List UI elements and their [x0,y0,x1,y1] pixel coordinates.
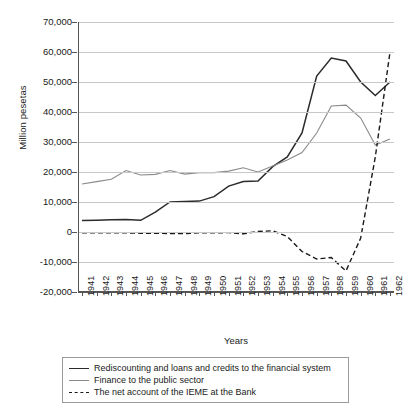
x-tick-label: 1953 [262,276,272,296]
legend-item: Finance to the public sector [69,374,343,386]
y-tick-label: 50,000 [0,76,72,87]
x-tick-mark [390,292,391,296]
y-tick-mark [72,142,77,143]
x-tick-mark [258,292,259,296]
x-tick-label: 1945 [145,276,155,296]
x-tick-mark [229,292,230,296]
x-tick-mark [185,292,186,296]
gridline [78,142,394,143]
x-tick-label: 1959 [350,276,360,296]
x-tick-mark [243,292,244,296]
y-tick-label: 0 [0,226,72,237]
x-tick-mark [361,292,362,296]
x-tick-label: 1942 [101,276,111,296]
gridline [78,232,394,233]
gridline [78,262,394,263]
x-tick-mark [331,292,332,296]
x-tick-label: 1949 [203,276,213,296]
legend-item-label: Rediscounting and loans and credits to t… [94,363,331,373]
x-tick-mark [273,292,274,296]
gridline [78,112,394,113]
gridline [78,52,394,53]
x-tick-mark [346,292,347,296]
series-lines [78,22,394,292]
y-tick-label: -20,000 [0,286,72,297]
chart-figure: Million pesetas 70,00060,00050,00040,000… [0,0,410,409]
legend-item: The net account of the IEME at the Bank [69,386,343,398]
x-tick-mark [170,292,171,296]
x-tick-mark [375,292,376,296]
x-tick-label: 1947 [174,276,184,296]
y-tick-label: 70,000 [0,16,72,27]
x-tick-mark [302,292,303,296]
y-tick-mark [72,202,77,203]
x-tick-label: 1957 [321,276,331,296]
x-tick-mark [82,292,83,296]
y-tick-mark [72,52,77,53]
x-tick-label: 1950 [218,276,228,296]
x-tick-label: 1956 [306,276,316,296]
x-tick-mark [287,292,288,296]
x-tick-label: 1955 [291,276,301,296]
x-axis-title: Years [78,335,394,346]
x-tick-mark [141,292,142,296]
y-tick-label: 60,000 [0,46,72,57]
x-tick-mark [317,292,318,296]
x-tick-mark [126,292,127,296]
x-tick-mark [155,292,156,296]
y-tick-mark [72,82,77,83]
legend-swatch-icon [69,376,89,384]
y-tick-mark [72,112,77,113]
gridline [78,82,394,83]
x-tick-mark [111,292,112,296]
x-tick-label: 1958 [335,276,345,296]
x-tick-label: 1943 [115,276,125,296]
x-tick-label: 1962 [394,276,404,296]
y-tick-mark [72,232,77,233]
gridline [78,172,394,173]
y-tick-mark [72,262,77,263]
x-tick-mark [199,292,200,296]
y-tick-label: 40,000 [0,106,72,117]
x-tick-mark [97,292,98,296]
chart-legend: Rediscounting and loans and credits to t… [62,357,349,403]
gridline [78,202,394,203]
plot-area [78,22,394,292]
x-tick-label: 1961 [379,276,389,296]
y-axis-line [78,22,79,292]
x-tick-label: 1952 [247,276,257,296]
x-tick-label: 1954 [277,276,287,296]
x-tick-label: 1948 [189,276,199,296]
series-line [82,52,390,271]
x-tick-label: 1960 [365,276,375,296]
x-tick-label: 1946 [159,276,169,296]
y-tick-label: 10,000 [0,196,72,207]
legend-item-label: The net account of the IEME at the Bank [94,387,256,397]
x-tick-label: 1941 [86,276,96,296]
y-tick-label: 30,000 [0,136,72,147]
y-tick-label: -10,000 [0,256,72,267]
y-tick-mark [72,22,77,23]
gridline [78,22,394,23]
y-tick-mark [72,172,77,173]
x-tick-mark [214,292,215,296]
y-tick-mark [72,292,77,293]
legend-swatch-icon [69,388,89,396]
x-tick-label: 1951 [233,276,243,296]
legend-swatch-icon [69,364,89,372]
y-tick-label: 20,000 [0,166,72,177]
legend-item-label: Finance to the public sector [94,375,204,385]
x-tick-label: 1944 [130,276,140,296]
legend-item: Rediscounting and loans and credits to t… [69,362,343,374]
